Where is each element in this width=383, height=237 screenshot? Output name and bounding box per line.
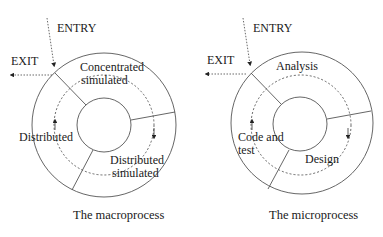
entry-label: ENTRY	[253, 21, 293, 35]
phase-label: Code and	[238, 130, 284, 144]
diagram-caption: The microprocess	[269, 208, 358, 222]
inner-circle	[77, 98, 131, 152]
phase-label: Distributed	[19, 130, 73, 144]
entry-arrow-icon	[47, 18, 54, 65]
phase-divider	[251, 73, 281, 104]
phase-label: simulated	[81, 73, 128, 87]
macroprocess-diagram: ENTRY EXIT Concentrated simulated Distri…	[11, 18, 176, 222]
entry-arrow-icon	[243, 18, 250, 64]
exit-label: EXIT	[207, 53, 235, 67]
phase-label: simulated	[112, 166, 159, 180]
phase-label: Distributed	[110, 153, 164, 167]
diagram-caption: The macroprocess	[73, 208, 164, 222]
phase-label: test	[238, 143, 255, 157]
phase-divider	[72, 150, 93, 190]
phase-label: Design	[305, 152, 339, 166]
phase-divider	[268, 150, 289, 189]
exit-label: EXIT	[11, 54, 39, 68]
process-diagrams: ENTRY EXIT Concentrated simulated Distri…	[0, 0, 383, 237]
microprocess-diagram: ENTRY EXIT Analysis Design Code and test…	[207, 18, 373, 222]
phase-label: Analysis	[276, 59, 318, 73]
entry-label: ENTRY	[57, 21, 97, 35]
phase-label: Concentrated	[80, 60, 144, 74]
